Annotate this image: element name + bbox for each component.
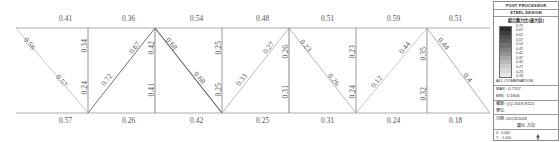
top-chord-label-1: 0.41 [59, 15, 72, 22]
colorbar-value-list: 0.72 0.67 0.62 0.57 0.52 0.47 0.42 0.37 … [516, 25, 558, 79]
legend-file-label: 檔案: QQ-2019-R121 [494, 101, 558, 108]
legend-max-value: MAX : 0.7157 [494, 86, 558, 93]
bottom-chord-label-4: 0.25 [256, 117, 269, 124]
colorbar [499, 26, 512, 78]
vertical-label-x155-upper: 0.42 [148, 41, 155, 54]
axis-coordinate-list: X : 0.000 Y : -1.000 Z : 0.000 [496, 131, 526, 141]
vertical-label-x88-lower: 0.24 [81, 81, 88, 94]
bottom-chord-label-1: 0.57 [59, 117, 72, 124]
colorbar-value-12: 0.18 [516, 75, 558, 79]
colorbar-band-12 [500, 73, 511, 77]
legend-view-label: 顯示-方向 [494, 122, 558, 129]
top-chord-label-5: 0.51 [321, 15, 334, 22]
top-chord-label-4: 0.48 [256, 15, 269, 22]
legend-title-post-processor: POST PROCESSOR [494, 2, 558, 9]
legend-min-value: MIN : 0.1806 [494, 93, 558, 100]
colorbar-value-3: 0.62 [516, 34, 558, 38]
legend-panel[interactable]: POST PROCESSOR STEEL DESIGN 組合應力比(最大值) [493, 1, 559, 141]
vertical-label-x427-upper: 0.35 [420, 47, 427, 60]
diagonal-n6-n7 [356, 28, 427, 113]
vertical-label-x427-lower: 0.32 [420, 87, 427, 100]
legend-unit-label: 單位: [494, 107, 558, 114]
vertical-label-x356-upper: 0.23 [349, 45, 356, 58]
top-chord-label-3: 0.54 [190, 15, 203, 22]
model-view[interactable]: 0.41 0.36 0.54 0.48 0.51 0.59 0.51 0.57 … [0, 0, 492, 142]
vertical-label-x222-upper: 0.25 [215, 41, 222, 54]
top-chord-label-6: 0.59 [387, 15, 400, 22]
vertical-label-x289-upper: 0.26 [282, 45, 289, 58]
bottom-chord-label-6: 0.24 [387, 117, 400, 124]
vertical-label-x356-lower: 0.24 [349, 85, 356, 98]
vertical-label-x222-lower: 0.25 [215, 83, 222, 96]
screenshot-root: 0.41 0.36 0.54 0.48 0.51 0.59 0.51 0.57 … [0, 0, 560, 142]
bottom-chord-label-7: 0.18 [449, 117, 462, 124]
axis-coord-y: Y : -1.000 [496, 136, 526, 141]
axis-triad-icon [530, 132, 556, 141]
legend-combination-label: ALL COMBINATION [494, 78, 558, 85]
legend-date-label: 日期: 01/23/2018 [494, 115, 558, 122]
bottom-chord-label-3: 0.42 [190, 117, 203, 124]
legend-color-scale: 0.72 0.67 0.62 0.57 0.52 0.47 0.42 0.37 … [494, 26, 558, 78]
vertical-label-x155-lower: 0.41 [148, 83, 155, 96]
bottom-chord-label-2: 0.26 [122, 117, 135, 124]
axis-indicator-block: X : 0.000 Y : -1.000 Z : 0.000 [494, 130, 558, 141]
vertical-label-x88-upper: 0.34 [81, 39, 88, 52]
legend-title-steel-design: STEEL DESIGN [494, 10, 558, 17]
diagonal-n4-n5 [222, 28, 289, 113]
legend-title-stress-ratio: 組合應力比(最大值) [494, 17, 558, 24]
diagonal-n2-n3 [88, 28, 155, 113]
top-chord-label-2: 0.36 [122, 15, 135, 22]
vertical-label-x289-lower: 0.31 [282, 85, 289, 98]
truss-diagram [0, 0, 492, 142]
bottom-chord-label-5: 0.31 [321, 117, 334, 124]
top-chord-label-7: 0.51 [449, 15, 462, 22]
